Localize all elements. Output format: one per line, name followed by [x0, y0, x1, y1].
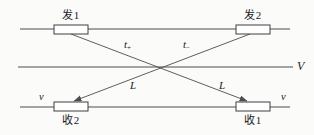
- length-label-right: L: [219, 80, 225, 91]
- speed-label-right: v: [281, 92, 286, 103]
- receiver2-label: 收2: [62, 115, 81, 126]
- speed-label-left: v: [39, 92, 44, 103]
- time-label-right-subscript: −: [186, 44, 190, 52]
- transmitter1-label: 发1: [62, 10, 81, 21]
- transmitter2-label: 发2: [244, 10, 263, 21]
- diagram-geometry: [0, 0, 314, 135]
- flow-velocity-label: V: [297, 60, 304, 72]
- transmitter2-box: [236, 25, 270, 34]
- diagram-canvas: 发1 发2 收2 收1 t+ t− L L V v v: [0, 0, 314, 135]
- receiver1-label: 收1: [244, 115, 263, 126]
- transmitter1-box: [54, 25, 88, 34]
- time-label-left-subscript: +: [127, 44, 131, 52]
- time-label-right: t−: [183, 39, 190, 52]
- receiver2-box: [54, 102, 88, 111]
- length-label-left: L: [130, 80, 136, 91]
- time-label-left: t+: [124, 39, 131, 52]
- receiver1-box: [236, 102, 270, 111]
